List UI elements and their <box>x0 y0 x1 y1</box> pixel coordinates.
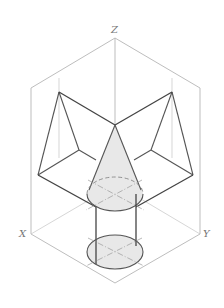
y-axis-label: Y <box>203 228 211 239</box>
z-axis-label: Z <box>110 24 119 35</box>
top-ridge <box>59 92 172 125</box>
right-pyramid <box>134 78 193 175</box>
left-pyramid <box>38 78 96 175</box>
x-axis-label: X <box>18 228 27 239</box>
cone <box>87 125 143 211</box>
isometric-diagram: Z X Y <box>0 0 224 308</box>
